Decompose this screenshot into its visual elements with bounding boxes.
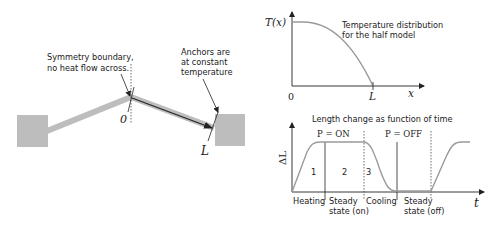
power-off-label: P = OFF xyxy=(385,129,422,139)
length-change-plot: Length change as function of time P = ON… xyxy=(277,114,484,216)
phase-steady-off-line2: state (off) xyxy=(404,206,444,216)
length-change-curve xyxy=(292,142,470,192)
phase-number-3: 3 xyxy=(366,167,371,177)
right-anchor-block xyxy=(215,114,245,146)
phase-steady-on-line1: Steady xyxy=(329,196,358,206)
anchor-note-line1: Anchors are xyxy=(181,47,230,57)
length-plot-title: Length change as function of time xyxy=(312,114,453,124)
phase-heating-label: Heating xyxy=(293,196,325,206)
temperature-distribution-plot: T(x) x 0 L Temperature distribution for … xyxy=(265,12,443,102)
origin-label: 0 xyxy=(120,113,127,126)
temp-x-tick-L: L xyxy=(368,90,376,102)
phase-steady-off-line1: Steady xyxy=(404,196,433,206)
left-beam xyxy=(47,97,131,131)
phase-steady-on-line2: state (on) xyxy=(329,206,369,216)
symmetry-note-line1: Symmetry boundary, xyxy=(47,52,134,62)
symmetry-note-line2: no heat flow across. xyxy=(47,63,129,73)
phase-cooling-label: Cooling xyxy=(366,196,397,206)
temp-x-label: x xyxy=(408,87,414,99)
right-beam xyxy=(131,97,214,128)
symmetry-pointer-arrow xyxy=(121,74,130,96)
anchor-note-line2: at constant xyxy=(181,57,228,67)
temp-y-label: T(x) xyxy=(265,16,286,28)
anchor-pointer-arrow xyxy=(203,79,218,112)
beam-figure: Symmetry boundary, no heat flow across. … xyxy=(17,47,245,158)
temp-caption-line1: Temperature distribution xyxy=(341,20,443,30)
phase-number-1: 1 xyxy=(311,167,316,177)
length-x-label: t xyxy=(474,196,479,210)
power-on-label: P = ON xyxy=(317,129,350,139)
temp-x-tick-0: 0 xyxy=(288,91,294,102)
diagram-canvas: Symmetry boundary, no heat flow across. … xyxy=(0,0,503,228)
anchor-note-line3: temperature xyxy=(181,67,232,77)
temp-caption-line2: for the half model xyxy=(342,30,415,40)
end-label: L xyxy=(200,144,209,158)
phase-number-2: 2 xyxy=(342,167,347,177)
left-anchor-block xyxy=(17,115,48,147)
length-y-label: ΔL xyxy=(277,151,288,165)
half-model-arrow xyxy=(132,98,212,128)
